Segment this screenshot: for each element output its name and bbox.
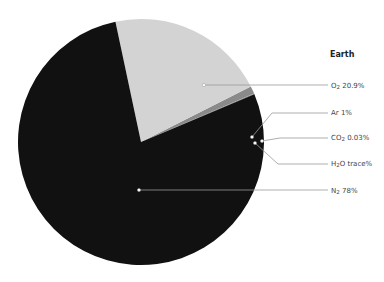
- chart-title: Earth: [330, 50, 354, 59]
- marker-n2: [137, 188, 140, 191]
- marker-h2o: [253, 141, 256, 144]
- label-h2o: H2O trace%: [331, 160, 372, 168]
- marker-ar: [250, 135, 253, 138]
- pie-chart: [0, 0, 384, 282]
- marker-o2: [202, 83, 205, 86]
- leader-line-co2: [262, 138, 328, 141]
- label-o2: O2 20.9%: [331, 82, 364, 90]
- leader-line-h2o: [255, 143, 328, 164]
- label-co2: CO2 0.03%: [331, 134, 369, 142]
- label-ar: Ar 1%: [331, 109, 352, 117]
- marker-co2: [260, 139, 263, 142]
- label-n2: N2 78%: [331, 187, 358, 195]
